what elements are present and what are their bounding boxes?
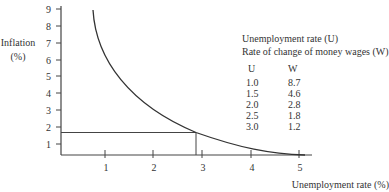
svg-text:4.6: 4.6 bbox=[288, 88, 301, 99]
phillips-curve-chart: 1 2 3 4 5 6 7 8 9 1 2 3 4 5 Inflation (%… bbox=[0, 0, 389, 192]
svg-text:8: 8 bbox=[46, 21, 51, 32]
svg-text:2.8: 2.8 bbox=[288, 99, 301, 110]
x-axis-label: Unemployment rate (%) bbox=[292, 179, 389, 191]
table-title-w: Rate of change of money wages (W) bbox=[242, 46, 389, 58]
svg-text:Inflation: Inflation bbox=[1, 37, 35, 48]
svg-text:4: 4 bbox=[250, 162, 255, 173]
x-tick-labels: 1 2 3 4 5 bbox=[104, 162, 303, 173]
svg-text:1.5: 1.5 bbox=[246, 88, 259, 99]
svg-text:1: 1 bbox=[46, 139, 51, 150]
table-col-u: U bbox=[248, 63, 256, 74]
phillips-curve-line bbox=[93, 10, 305, 155]
svg-text:2.0: 2.0 bbox=[246, 99, 259, 110]
svg-text:2: 2 bbox=[46, 122, 51, 133]
x-ticks bbox=[105, 150, 299, 158]
svg-text:5: 5 bbox=[46, 71, 51, 82]
svg-text:9: 9 bbox=[46, 4, 51, 15]
svg-text:3: 3 bbox=[46, 105, 51, 116]
svg-text:(%): (%) bbox=[11, 51, 26, 63]
svg-text:1.0: 1.0 bbox=[246, 77, 259, 88]
y-ticks bbox=[56, 9, 61, 144]
svg-text:1.8: 1.8 bbox=[288, 110, 301, 121]
svg-text:7: 7 bbox=[46, 38, 51, 49]
svg-text:5: 5 bbox=[298, 162, 303, 173]
svg-text:3: 3 bbox=[201, 162, 206, 173]
y-axis-label: Inflation (%) bbox=[1, 37, 35, 63]
svg-text:2.5: 2.5 bbox=[246, 110, 259, 121]
y-tick-labels: 1 2 3 4 5 6 7 8 9 bbox=[46, 4, 51, 150]
svg-text:1.2: 1.2 bbox=[288, 121, 301, 132]
svg-text:6: 6 bbox=[46, 55, 51, 66]
table-col-w: W bbox=[288, 63, 298, 74]
svg-text:8.7: 8.7 bbox=[288, 77, 301, 88]
svg-text:4: 4 bbox=[46, 88, 51, 99]
data-table: Unemployment rate (U) Rate of change of … bbox=[242, 33, 389, 132]
svg-text:2: 2 bbox=[152, 162, 157, 173]
svg-text:1: 1 bbox=[104, 162, 109, 173]
svg-text:3.0: 3.0 bbox=[246, 121, 259, 132]
table-title-u: Unemployment rate (U) bbox=[242, 33, 338, 45]
